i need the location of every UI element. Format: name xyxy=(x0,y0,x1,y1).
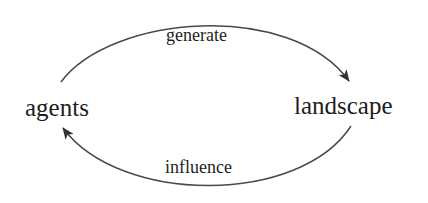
diagram-canvas: agents landscape generate influence xyxy=(0,0,428,203)
edge-label-influence: influence xyxy=(165,158,232,176)
edge-label-generate: generate xyxy=(166,26,227,44)
node-landscape: landscape xyxy=(294,93,393,118)
node-agents: agents xyxy=(25,95,89,120)
